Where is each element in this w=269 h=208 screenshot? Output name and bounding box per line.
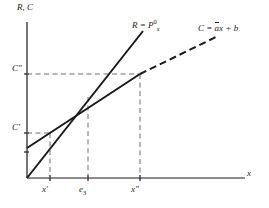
y-axis-label: R, C (17, 2, 33, 12)
cost-line-dashed-extension (140, 36, 218, 74)
cost-label-overbar-a: a (215, 23, 220, 33)
xtick-label-x-prime: x′ (42, 184, 48, 194)
cost-curve-label: C = ax + b (198, 23, 238, 33)
xtick-label-e3: e3 (79, 184, 86, 196)
revenue-curve-label: R = P0x (132, 18, 160, 32)
cost-line-solid (27, 74, 140, 148)
x-axis-label: x (247, 168, 251, 178)
ytick-label-c-doubleprime: C″ (12, 63, 22, 73)
xtick-label-x-doubleprime: x″ (131, 184, 139, 194)
cost-label-prefix: C = (198, 23, 215, 33)
cost-label-suffix: x + b (219, 23, 238, 33)
revenue-label-subscript: x (157, 25, 160, 32)
xtick-label-e3-subscript: 3 (83, 189, 86, 196)
revenue-line (27, 31, 143, 178)
ytick-label-c-prime: C′ (12, 122, 20, 132)
revenue-label-text: R = P (132, 20, 154, 30)
chart-figure: R, C x R = P0x C = ax + b C″ C′ x′ e3 x″ (0, 0, 269, 208)
